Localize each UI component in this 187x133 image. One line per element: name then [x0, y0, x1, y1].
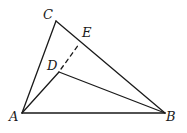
segment-db [59, 72, 165, 113]
triangle-diagram: A B C D E [0, 0, 187, 133]
segment-ad [22, 72, 59, 113]
segment-de-dashed [61, 44, 79, 69]
label-e: E [81, 25, 92, 40]
label-c: C [43, 7, 53, 22]
segment-cb [56, 21, 165, 113]
label-a: A [8, 109, 18, 124]
label-d: D [46, 58, 58, 73]
label-b: B [165, 109, 176, 124]
